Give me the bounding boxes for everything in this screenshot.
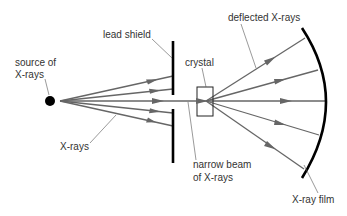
deflected-ray-2 <box>206 70 318 101</box>
label-source-2: X-rays <box>15 69 44 80</box>
xray-source-dot <box>45 96 55 106</box>
label-xray-film: X-ray film <box>292 194 334 205</box>
label-narrow-beam: narrow beam <box>193 159 251 170</box>
leader-lead-shield <box>152 39 172 58</box>
deflected-ray-4 <box>206 101 319 135</box>
label-crystal: crystal <box>185 57 214 68</box>
label-source: source of <box>15 57 56 68</box>
arrow-icon <box>149 108 161 113</box>
leader-source <box>45 79 49 95</box>
label-narrow-beam-2: of X-rays <box>193 172 233 183</box>
leader-deflected <box>241 24 256 68</box>
incident-rays <box>60 76 206 126</box>
incident-ray-5 <box>60 101 173 126</box>
arrow-icon <box>274 120 286 126</box>
arrow-icon <box>146 79 158 84</box>
deflected-ray-1 <box>206 38 305 101</box>
label-lead-shield: lead shield <box>103 29 151 40</box>
label-deflected-xrays: deflected X-rays <box>228 12 300 23</box>
leader-film <box>304 165 318 193</box>
deflected-rays <box>206 38 325 169</box>
xray-film <box>302 28 326 178</box>
arrow-icon <box>149 89 161 94</box>
arrow-icon <box>264 57 276 66</box>
arrow-icon <box>146 118 156 123</box>
leader-narrow-beam <box>188 102 196 160</box>
arrow-icon <box>274 79 286 85</box>
leader-xrays <box>90 115 116 143</box>
arrow-icon <box>152 98 164 104</box>
arrow-icon <box>280 98 292 104</box>
label-xrays: X-rays <box>60 141 89 152</box>
xray-diffraction-diagram: source of X-rays lead shield deflected X… <box>0 0 347 216</box>
leader-crystal <box>202 68 206 87</box>
